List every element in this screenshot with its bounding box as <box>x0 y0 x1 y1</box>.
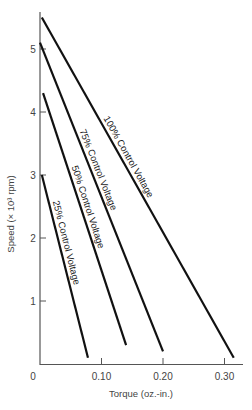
speed-torque-chart: 00.100.200.30 12345 25% Control Voltage5… <box>0 0 252 410</box>
y-ticks: 12345 <box>30 44 46 307</box>
series-line-3 <box>40 43 163 352</box>
x-tick-label: 0.30 <box>215 371 235 382</box>
x-tick-label: 0 <box>30 371 36 382</box>
y-tick-label: 1 <box>30 296 36 307</box>
series-line-4 <box>42 18 234 358</box>
x-ticks: 00.100.200.30 <box>30 358 234 382</box>
y-tick-label: 2 <box>30 233 36 244</box>
x-axis-title: Torque (oz.-in.) <box>109 388 173 399</box>
y-tick-label: 4 <box>30 107 36 118</box>
y-axis-title: Speed (× 10³ rpm) <box>5 175 16 252</box>
y-tick-label: 5 <box>30 44 36 55</box>
series-line-1 <box>42 175 88 358</box>
x-tick-label: 0.10 <box>92 371 112 382</box>
x-tick-label: 0.20 <box>153 371 173 382</box>
series-lines <box>40 18 234 358</box>
y-tick-label: 3 <box>30 170 36 181</box>
